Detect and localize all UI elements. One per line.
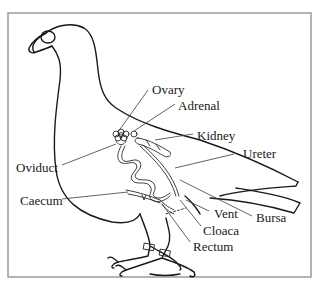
label-cloaca: Cloaca [203,223,239,238]
label-kidney: Kidney [197,128,236,143]
bird-anatomy-diagram: Ovary Adrenal Kidney Ureter Oviduct Caec… [0,0,317,285]
label-ureter: Ureter [243,146,277,161]
label-caecum: Caecum [20,193,63,208]
label-vent: Vent [214,206,238,221]
label-rectum: Rectum [193,239,233,254]
label-oviduct: Oviduct [16,160,58,175]
label-bursa: Bursa [256,210,287,225]
diagram-frame [8,13,311,277]
label-adrenal: Adrenal [178,98,220,113]
label-ovary: Ovary [152,82,185,97]
